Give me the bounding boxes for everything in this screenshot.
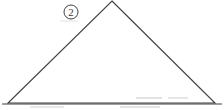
figure-container: 2 Triangle with circled label 2 bbox=[0, 0, 224, 110]
scan-artifact bbox=[120, 106, 160, 108]
scan-artifact bbox=[30, 106, 64, 108]
scan-artifact bbox=[168, 97, 188, 99]
canvas-background bbox=[0, 0, 224, 110]
triangle-diagram: 2 bbox=[0, 0, 224, 110]
label-number-2: 2 bbox=[68, 6, 74, 18]
scan-artifact bbox=[60, 20, 78, 22]
annotation-label-2: 2 bbox=[64, 5, 78, 19]
scan-artifact bbox=[136, 97, 162, 99]
